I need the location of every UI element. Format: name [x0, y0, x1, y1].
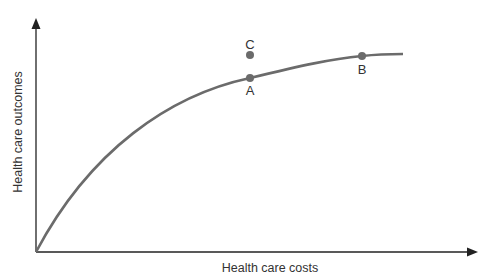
- x-axis-label: Health care costs: [222, 261, 319, 275]
- y-axis-arrow-icon: [32, 18, 41, 29]
- x-axis-arrow-icon: [467, 248, 478, 257]
- y-axis-label: Health care outcomes: [11, 71, 25, 193]
- point-a: [246, 74, 254, 82]
- point-b-label: B: [358, 62, 367, 77]
- frontier-curve: [36, 54, 403, 252]
- diagram: A B C Health care costs Health care outc…: [0, 0, 492, 280]
- point-c-label: C: [245, 37, 254, 52]
- point-c: [246, 51, 254, 59]
- point-a-label: A: [246, 83, 255, 98]
- point-b: [358, 52, 366, 60]
